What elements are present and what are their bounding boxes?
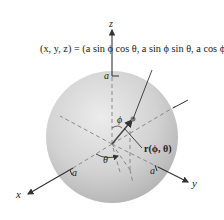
y-axis-label: y	[191, 177, 197, 189]
radius-label-top: a	[104, 70, 109, 81]
equation-label: (x, y, z) = (a sin ϕ cos θ, a sin ϕ sin …	[40, 43, 224, 55]
r-vector-label: r(ϕ, θ)	[144, 143, 172, 155]
x-axis-label: x	[15, 188, 21, 200]
phi-label: ϕ	[117, 114, 122, 125]
sphere-diagram: z x y (x, y, z) = (a sin ϕ cos θ, a sin …	[0, 0, 224, 220]
theta-label: θ	[103, 154, 108, 165]
surface-normal-line	[173, 100, 188, 108]
radius-label-x: a	[72, 167, 77, 178]
z-axis-label: z	[108, 18, 113, 29]
radius-label-y: a	[150, 165, 155, 176]
